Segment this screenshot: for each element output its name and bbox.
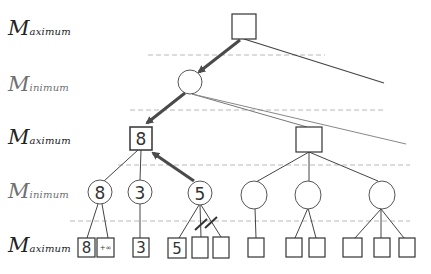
min-node-2-value: 3 — [135, 183, 146, 203]
edge-min-to-right-max — [192, 94, 307, 127]
edge-root-right — [244, 39, 384, 83]
leaf-5 — [192, 237, 208, 258]
leaf-10 — [343, 238, 362, 257]
level-dividers — [70, 55, 410, 221]
edge-max8-to-min3 — [140, 150, 141, 180]
edge-rmax-3 — [309, 152, 378, 181]
root-max-node — [232, 14, 256, 39]
leaf-6 — [213, 237, 229, 258]
leaf-3-value: 3 — [136, 239, 146, 257]
leaf-12 — [399, 238, 415, 257]
leaf-7 — [248, 238, 264, 257]
leaf-4-value: 5 — [172, 240, 182, 258]
arrow-root-to-min — [199, 40, 240, 72]
tree-svg: 8 8 3 5 8 +∞ — [0, 0, 431, 274]
leaf-8 — [286, 238, 302, 257]
edge-max8-to-min8 — [104, 150, 138, 181]
min-node-4 — [241, 181, 267, 209]
minimax-diagram: Maximum Minimum Maximum Minimum Maximum — [0, 0, 431, 274]
min-node-1-value: 8 — [95, 183, 106, 203]
max-node-right — [296, 127, 322, 152]
edge-rmax-1 — [256, 152, 309, 182]
min-node-3-value: 5 — [195, 184, 206, 204]
pruned-cut-marks — [195, 217, 217, 230]
leaf-2-value: +∞ — [100, 244, 112, 252]
arrow-min5-to-max8 — [153, 153, 194, 181]
leaf-9 — [309, 238, 325, 257]
min-node-5 — [295, 181, 321, 209]
max-node-left-value: 8 — [136, 129, 147, 149]
min-node-6 — [369, 181, 395, 209]
leaf-1-value: 8 — [82, 239, 92, 257]
min-node-root-child — [178, 70, 202, 94]
arrow-min-to-max8 — [147, 93, 185, 123]
leaf-11 — [374, 238, 390, 257]
